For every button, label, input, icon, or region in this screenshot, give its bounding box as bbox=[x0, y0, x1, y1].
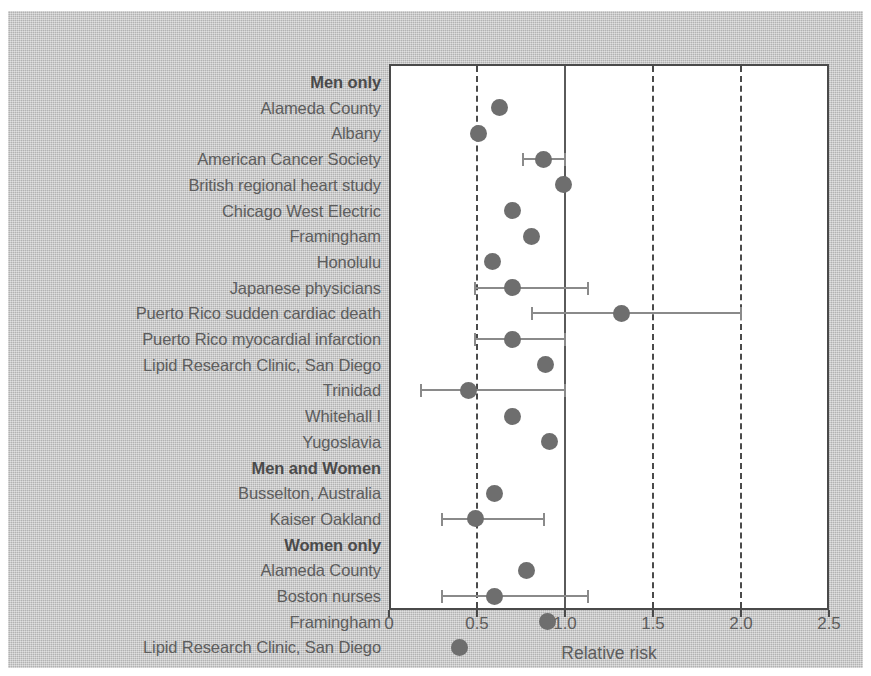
study-label: Trinidad bbox=[0, 382, 381, 399]
x-tick-label: 2.5 bbox=[817, 615, 841, 632]
study-label: Whitehall I bbox=[0, 408, 381, 425]
study-label-column: Men onlyAlameda CountyAlbanyAmerican Can… bbox=[0, 0, 381, 676]
gridline-2.0 bbox=[740, 66, 742, 608]
study-label: Lipid Research Clinic, San Diego bbox=[0, 639, 381, 656]
x-tick-label: 0 bbox=[384, 615, 393, 632]
study-label: Alameda County bbox=[0, 562, 381, 579]
group-heading: Men and Women bbox=[0, 460, 381, 477]
plot-area bbox=[389, 64, 829, 610]
study-label: Chicago West Electric bbox=[0, 203, 381, 220]
gridline-0.5 bbox=[476, 66, 478, 608]
study-label: American Cancer Society bbox=[0, 151, 381, 168]
reference-line-1.0 bbox=[564, 66, 566, 608]
study-label: Lipid Research Clinic, San Diego bbox=[0, 357, 381, 374]
x-tick-label: 2.0 bbox=[729, 615, 753, 632]
study-label: Yugoslavia bbox=[0, 434, 381, 451]
gridline-1.5 bbox=[652, 66, 654, 608]
x-tick-label: 0.5 bbox=[465, 615, 489, 632]
study-label: Boston nurses bbox=[0, 588, 381, 605]
study-label: Alameda County bbox=[0, 100, 381, 117]
x-axis-title: Relative risk bbox=[389, 643, 829, 664]
group-heading: Men only bbox=[0, 74, 381, 91]
x-tick-label: 1.0 bbox=[553, 615, 577, 632]
study-label: Kaiser Oakland bbox=[0, 511, 381, 528]
x-tick-label: 1.5 bbox=[641, 615, 665, 632]
study-label: Puerto Rico myocardial infarction bbox=[0, 331, 381, 348]
study-label: Puerto Rico sudden cardiac death bbox=[0, 305, 381, 322]
study-label: Framingham bbox=[0, 228, 381, 245]
study-label: Framingham bbox=[0, 614, 381, 631]
study-label: British regional heart study bbox=[0, 177, 381, 194]
forest-plot-figure: Men onlyAlameda CountyAlbanyAmerican Can… bbox=[0, 0, 871, 676]
group-heading: Women only bbox=[0, 537, 381, 554]
study-label: Japanese physicians bbox=[0, 280, 381, 297]
study-label: Albany bbox=[0, 125, 381, 142]
study-label: Honolulu bbox=[0, 254, 381, 271]
study-label: Busselton, Australia bbox=[0, 485, 381, 502]
